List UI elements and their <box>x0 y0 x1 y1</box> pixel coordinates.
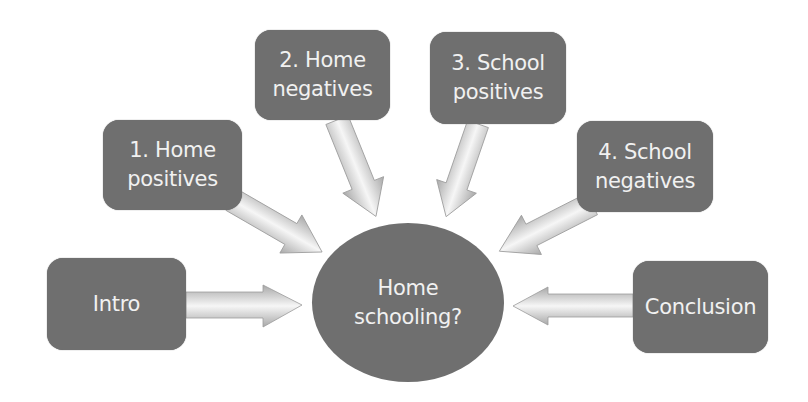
arrow-intro-to-center <box>186 285 302 327</box>
node-school-negatives: 4. School negatives <box>577 121 713 212</box>
node-school-positives-line-2: positives <box>453 78 544 107</box>
node-home-positives-line-1: 1. Home <box>129 136 216 165</box>
node-home-positives-line-2: positives <box>127 165 218 194</box>
node-school-negatives-line-2: negatives <box>595 167 695 196</box>
essay-structure-diagram: Home schooling? Intro 1. Home positives … <box>0 0 808 402</box>
node-conclusion-label: Conclusion <box>645 293 756 322</box>
arrow-conclusion-to-center <box>513 287 633 325</box>
node-home-negatives: 2. Home negatives <box>255 30 390 120</box>
node-home-negatives-line-2: negatives <box>272 75 372 104</box>
center-node-line-1: Home <box>378 274 439 303</box>
center-node-line-2: schooling? <box>354 303 462 332</box>
center-node-home-schooling: Home schooling? <box>312 223 504 382</box>
node-intro-label: Intro <box>93 290 140 319</box>
node-home-positives: 1. Home positives <box>103 120 242 210</box>
arrow-school-positives-to-center <box>426 117 498 223</box>
node-school-positives: 3. School positives <box>430 32 566 124</box>
node-conclusion: Conclusion <box>633 261 768 353</box>
node-intro: Intro <box>47 258 186 350</box>
arrow-home-negatives-to-center <box>317 112 397 225</box>
node-school-positives-line-1: 3. School <box>451 49 545 78</box>
node-school-negatives-line-1: 4. School <box>598 138 692 167</box>
node-home-negatives-line-1: 2. Home <box>279 46 366 75</box>
